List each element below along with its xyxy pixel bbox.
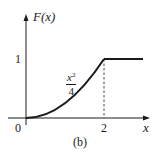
y-axis <box>24 14 29 125</box>
x-tick-label-2: 2 <box>101 122 107 134</box>
curve-label-numerator: x2 <box>66 72 76 85</box>
origin-label: 0 <box>15 122 21 134</box>
cdf-curve <box>26 59 104 118</box>
cdf-plot <box>0 0 164 155</box>
x-axis-label: x <box>143 121 149 134</box>
y-tick-label-1: 1 <box>15 53 21 65</box>
curve-label-denominator: 4 <box>66 85 76 97</box>
y-axis-arrow-icon <box>24 14 29 21</box>
y-axis-label: F(x) <box>33 10 55 23</box>
figure-caption: (b) <box>73 136 87 148</box>
curve-label: x2 4 <box>66 72 76 97</box>
